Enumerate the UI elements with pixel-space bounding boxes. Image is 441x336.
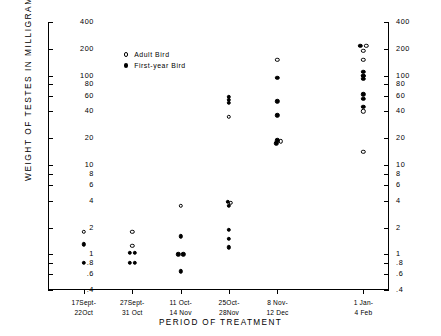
x-tick-label-line1: 11 Oct-	[169, 298, 192, 308]
data-point	[130, 229, 134, 233]
y-tick-left	[48, 201, 53, 202]
y-tick-right	[384, 290, 389, 291]
legend-item-first-year-bird: First-year Bird	[124, 60, 186, 71]
y-tick-left	[48, 290, 53, 291]
y-tick-label-left: 80	[85, 80, 94, 87]
x-tick-label: 27Sept-31 Oct	[120, 298, 145, 318]
x-tick-label-line1: 17Sept-	[72, 298, 97, 308]
y-tick-left	[48, 254, 53, 255]
y-tick-label-right: 20	[396, 134, 405, 141]
y-tick-right	[384, 201, 389, 202]
y-tick-right	[384, 111, 389, 112]
x-tick-label-line2: 4 Feb	[354, 308, 374, 318]
open-circle-icon	[124, 52, 128, 56]
chart-legend: Adult Bird First-year Bird	[124, 49, 186, 71]
y-tick-right	[384, 22, 389, 23]
data-point	[178, 204, 182, 208]
y-tick-right	[384, 138, 389, 139]
data-point	[227, 237, 231, 241]
y-tick-label-right: 6	[396, 181, 401, 188]
data-point	[133, 250, 137, 254]
data-point	[178, 234, 182, 238]
data-point	[128, 261, 132, 265]
y-tick-left	[48, 185, 53, 186]
x-axis-title: PERIOD OF TREATMENT	[0, 318, 441, 327]
data-point	[275, 113, 279, 117]
y-tick-label-left: 20	[85, 134, 94, 141]
data-point	[361, 150, 365, 154]
y-tick-label-left: 100	[80, 72, 94, 79]
y-tick-left	[48, 165, 53, 166]
y-tick-label-right: 2	[396, 224, 401, 231]
y-tick-label-right: 400	[396, 18, 410, 25]
y-tick-label-right: .8	[396, 259, 403, 266]
data-point	[361, 105, 365, 109]
y-tick-right	[384, 274, 389, 275]
y-tick-label-right: 40	[396, 107, 405, 114]
data-point	[361, 97, 365, 101]
data-point	[133, 261, 137, 265]
y-tick-right	[384, 174, 389, 175]
y-tick-label-right: .4	[396, 286, 403, 293]
y-tick-label-left: .4	[87, 286, 94, 293]
data-point	[82, 229, 86, 233]
data-point	[82, 261, 86, 265]
y-tick-right	[384, 76, 389, 77]
y-tick-label-left: 8	[89, 170, 94, 177]
data-point	[227, 227, 231, 231]
x-tick-label: 11 Oct-14 Nov	[169, 298, 192, 318]
x-axis-line	[48, 289, 389, 290]
y-tick-right	[384, 254, 389, 255]
x-tick	[277, 289, 278, 294]
y-tick-label-left: 200	[80, 45, 94, 52]
y-tick-label-right: 60	[396, 92, 405, 99]
x-tick-label: 17Sept-22Oct	[72, 298, 97, 318]
x-tick-label: 1 Jan-4 Feb	[354, 298, 374, 318]
x-tick	[363, 289, 364, 294]
x-tick-label-line1: 25Oct-	[219, 298, 240, 308]
y-tick-right	[384, 165, 389, 166]
y-axis-right-line	[388, 22, 389, 290]
y-tick-left	[48, 274, 53, 275]
y-tick-left	[48, 22, 53, 23]
data-point	[82, 242, 86, 246]
y-tick-left	[48, 228, 53, 229]
y-tick-label-right: 80	[396, 80, 405, 87]
y-tick-label-left: 10	[85, 161, 94, 168]
y-tick-label-right: 8	[396, 170, 401, 177]
data-point	[227, 245, 231, 249]
y-tick-label-right: 100	[396, 72, 410, 79]
data-point	[361, 49, 365, 53]
data-point	[128, 250, 132, 254]
x-tick-label-line2: 22Oct	[72, 308, 97, 318]
x-tick-label-line1: 8 Nov-	[266, 298, 288, 308]
data-point	[361, 58, 365, 62]
y-tick-label-right: .6	[396, 270, 403, 277]
data-point	[364, 44, 368, 48]
y-tick-left	[48, 49, 53, 50]
data-point	[279, 139, 283, 143]
data-point	[176, 252, 180, 256]
data-point	[227, 204, 231, 208]
y-tick-label-left: 6	[89, 181, 94, 188]
data-point	[178, 269, 182, 273]
y-tick-left	[48, 96, 53, 97]
y-tick-left	[48, 138, 53, 139]
y-tick-right	[384, 84, 389, 85]
y-axis-left-line	[48, 22, 49, 290]
y-tick-right	[384, 49, 389, 50]
y-tick-right	[384, 228, 389, 229]
x-tick-label: 25Oct-28Nov	[219, 298, 240, 318]
y-tick-left	[48, 263, 53, 264]
x-tick-label-line2: 14 Nov	[169, 308, 192, 318]
scatter-chart-figure: WEIGHT OF TESTES IN MILLIGRAMS PERIOD OF…	[0, 0, 441, 336]
x-tick	[132, 289, 133, 294]
legend-label-first-year-bird: First-year Bird	[134, 62, 186, 69]
data-point	[358, 44, 362, 48]
data-point	[275, 58, 279, 62]
x-tick-label-line2: 31 Oct	[120, 308, 145, 318]
y-tick-left	[48, 84, 53, 85]
y-tick-label-right: 10	[396, 161, 405, 168]
data-point	[274, 141, 278, 145]
x-tick-label-line2: 28Nov	[219, 308, 240, 318]
